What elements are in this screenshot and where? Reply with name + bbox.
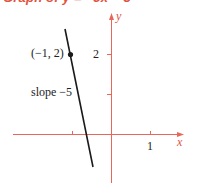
x-tick-label-1: 1 (147, 139, 153, 154)
x-axis-label: x (177, 135, 182, 150)
slope-label: slope −5 (31, 85, 72, 100)
y-tick-label-2: 2 (93, 47, 99, 62)
y-axis-arrow-icon (109, 13, 114, 20)
graph-canvas (0, 0, 199, 191)
point-marker (68, 52, 73, 57)
point-label: (−1, 2) (31, 46, 64, 61)
y-axis-label: y (116, 9, 121, 24)
